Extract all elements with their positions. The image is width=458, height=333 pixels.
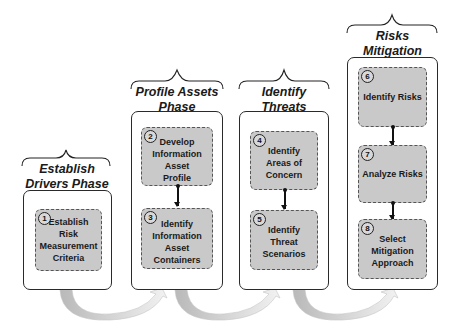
step-6-identify-risks: 6 Identify Risks xyxy=(358,67,427,127)
step-number-badge: 6 xyxy=(361,70,374,83)
flow-arrow-4-to-5 xyxy=(284,190,286,209)
step-number-badge: 3 xyxy=(144,211,157,224)
phase-container-establish-drivers: 1 Establish Risk Measurement Criteria xyxy=(23,190,112,290)
flow-arrow-7-to-8 xyxy=(392,203,394,219)
transition-arrow-2-to-3 xyxy=(175,288,280,320)
phase-container-profile-assets: 2 Develop Information Asset Profile 3 Id… xyxy=(131,111,223,290)
transition-arrow-3-to-4 xyxy=(293,288,398,320)
step-label: Identify Threat Scenarios xyxy=(251,220,317,260)
step-number-badge: 8 xyxy=(361,222,374,235)
step-label: Identify Risks xyxy=(360,91,425,103)
step-3-identify-information-asset-containers: 3 Identify Information Asset Containers xyxy=(141,208,213,269)
step-1-establish-risk-measurement-criteria: 1 Establish Risk Measurement Criteria xyxy=(35,209,102,271)
step-number-badge: 7 xyxy=(361,148,374,161)
step-number-badge: 5 xyxy=(253,213,266,226)
step-7-analyze-risks: 7 Analyze Risks xyxy=(358,145,427,203)
phase-title-line: Profile Assets xyxy=(131,85,223,100)
phase-title-line: Risks Mitigation xyxy=(347,29,438,59)
step-5-identify-threat-scenarios: 5 Identify Threat Scenarios xyxy=(250,210,318,270)
phase-title-line: Establish xyxy=(22,162,112,177)
step-label: Analyze Risks xyxy=(359,168,426,180)
phase-container-risks-mitigation: 6 Identify Risks 7 Analyze Risks 8 Selec… xyxy=(347,57,438,290)
step-label: Select Mitigation Approach xyxy=(368,229,417,269)
flow-arrow-2-to-3 xyxy=(177,186,179,206)
step-2-develop-information-asset-profile: 2 Develop Information Asset Profile xyxy=(141,127,213,186)
transition-arrow-1-to-2 xyxy=(60,288,167,320)
step-number-badge: 1 xyxy=(38,212,51,225)
step-number-badge: 4 xyxy=(253,134,266,147)
phase-title-establish-drivers: Establish Drivers Phase xyxy=(22,162,112,192)
step-8-select-mitigation-approach: 8 Select Mitigation Approach xyxy=(358,219,427,279)
step-number-badge: 2 xyxy=(144,130,157,143)
phase-container-identify-threats: 4 Identify Areas of Concern 5 Identify T… xyxy=(239,111,329,290)
flow-arrow-6-to-7 xyxy=(392,127,394,145)
step-4-identify-areas-of-concern: 4 Identify Areas of Concern xyxy=(250,131,318,190)
